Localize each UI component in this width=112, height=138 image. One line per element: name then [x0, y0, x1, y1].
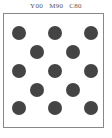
dot — [12, 64, 26, 78]
dot — [30, 45, 44, 59]
dot — [84, 64, 98, 78]
dot — [84, 101, 98, 115]
dot — [12, 26, 26, 40]
dot — [12, 101, 26, 115]
dot — [66, 83, 80, 97]
dot-pattern — [0, 0, 112, 138]
dot — [66, 45, 80, 59]
dot — [30, 83, 44, 97]
dot — [48, 101, 62, 115]
dot — [48, 26, 62, 40]
dot — [84, 26, 98, 40]
dot — [48, 64, 62, 78]
